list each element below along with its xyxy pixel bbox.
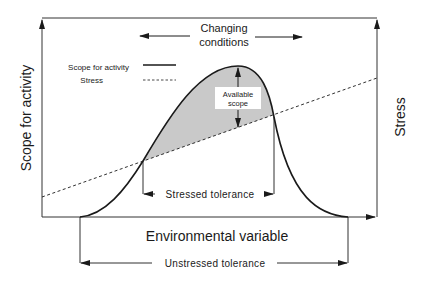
unstressed-tolerance-label: Unstressed tolerance [165,258,266,269]
y-axis-left-label: Scope for activity [18,65,34,172]
tolerance-diagram: Changing conditions Scope for activity S… [0,0,422,281]
legend: Scope for activity Stress [68,63,176,85]
x-axis-label: Environmental variable [146,228,289,244]
available-scope-label-2: scope [228,99,248,108]
stressed-tolerance-label: Stressed tolerance [166,189,255,200]
legend-label-scope: Scope for activity [68,63,129,72]
legend-label-stress: Stress [80,76,103,85]
y-axis-right-label: Stress [392,97,408,137]
changing-conditions-label-1: Changing [200,22,247,34]
changing-conditions-label-2: conditions [199,36,249,48]
available-scope-label-1: Available [223,90,253,99]
